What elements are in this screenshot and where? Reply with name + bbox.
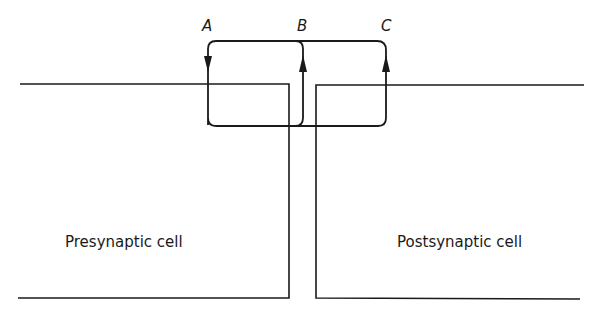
arrow-b-up-icon — [299, 55, 307, 72]
postsynaptic-cell-label: Postsynaptic cell — [397, 233, 522, 251]
loop-b-branch — [295, 41, 303, 126]
arrow-c-up-icon — [382, 55, 390, 72]
synapse-diagram: A B C Presynaptic cell Postsynaptic cell — [0, 0, 600, 320]
presynaptic-cell-label: Presynaptic cell — [65, 233, 183, 251]
presynaptic-cell-outline — [18, 84, 289, 298]
arrow-a-down-icon — [204, 56, 212, 72]
label-a: A — [201, 17, 212, 35]
label-b: B — [297, 17, 307, 35]
postsynaptic-cell-outline — [316, 85, 584, 299]
label-c: C — [381, 17, 392, 35]
